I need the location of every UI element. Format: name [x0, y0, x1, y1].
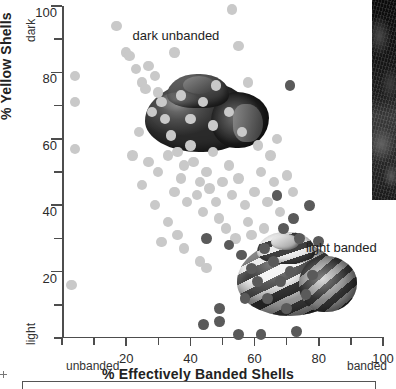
- data-point: [169, 187, 179, 197]
- data-point: [150, 200, 160, 210]
- data-point: [214, 316, 225, 327]
- data-point: [272, 134, 282, 144]
- y-tick-label: 100: [35, 5, 57, 20]
- data-point: [172, 147, 182, 157]
- data-point: [153, 167, 163, 177]
- y-axis-title: % Yellow Shells: [0, 20, 14, 120]
- y-axis-low-label: light: [24, 323, 38, 345]
- data-point: [224, 240, 235, 251]
- data-point: [246, 230, 256, 240]
- data-point: [166, 130, 176, 140]
- y-tick-label: 60: [43, 137, 57, 152]
- data-point: [204, 183, 214, 193]
- data-point: [269, 177, 279, 187]
- data-point: [294, 233, 305, 244]
- data-point: [249, 187, 259, 197]
- data-point: [262, 293, 273, 304]
- data-point: [201, 263, 211, 273]
- data-point: [156, 237, 166, 247]
- data-point: [275, 276, 286, 287]
- data-point: [288, 187, 298, 197]
- data-point: [143, 61, 153, 71]
- light-banded-label: light banded: [306, 240, 377, 255]
- data-point: [281, 303, 292, 314]
- data-point: [278, 223, 289, 234]
- data-point: [111, 21, 121, 31]
- data-point: [70, 144, 80, 154]
- data-point: [124, 51, 134, 61]
- data-point: [70, 97, 80, 107]
- data-point: [256, 167, 266, 177]
- data-point: [179, 243, 189, 253]
- data-point: [259, 223, 269, 233]
- data-point: [272, 190, 283, 201]
- data-point: [233, 41, 243, 51]
- x-axis-title: % Effectively Banded Shells: [102, 366, 294, 382]
- data-point: [198, 319, 209, 330]
- data-point: [275, 207, 285, 217]
- data-point: [214, 303, 225, 314]
- data-point: [227, 190, 237, 200]
- data-point: [259, 243, 270, 254]
- data-point: [127, 150, 137, 160]
- plot-area: dark unbandedlight banded: [62, 6, 383, 338]
- x-axis-tick-labels: 20406080100: [62, 338, 383, 358]
- y-tick-label: 20: [43, 270, 57, 285]
- data-point: [176, 173, 186, 183]
- y-tick-label: 40: [43, 204, 57, 219]
- data-point: [198, 207, 208, 217]
- data-point: [243, 77, 253, 87]
- data-point: [227, 4, 237, 14]
- dark-unbanded-label: dark unbanded: [133, 28, 220, 43]
- data-point: [265, 150, 275, 160]
- data-point: [176, 90, 186, 100]
- x-axis-low-label: unbanded: [66, 359, 119, 373]
- data-point: [285, 80, 296, 91]
- data-point: [201, 233, 212, 244]
- x-axis-high-label: banded: [347, 359, 387, 373]
- data-point: [262, 197, 272, 207]
- shell-lip: [233, 104, 263, 142]
- data-point: [291, 326, 302, 337]
- figure-frame-bottom: [22, 381, 376, 389]
- x-tick-label: 80: [312, 351, 326, 366]
- data-point: [70, 71, 80, 81]
- x-tick-label: 40: [183, 351, 197, 366]
- shell-aperture: [299, 256, 357, 312]
- data-point: [188, 157, 198, 167]
- data-point: [185, 114, 195, 124]
- data-point: [208, 120, 218, 130]
- data-point: [246, 263, 257, 274]
- x-tick-label: 20: [119, 351, 133, 366]
- data-point: [208, 147, 218, 157]
- data-point: [140, 84, 150, 94]
- data-point: [307, 270, 318, 281]
- data-point: [182, 197, 192, 207]
- data-point: [211, 197, 221, 207]
- data-point: [172, 230, 182, 240]
- data-point: [150, 71, 160, 81]
- data-point: [66, 280, 76, 290]
- data-point: [240, 200, 250, 210]
- data-point: [211, 80, 221, 90]
- data-point: [221, 223, 231, 233]
- data-point: [285, 266, 296, 277]
- data-point: [185, 140, 195, 150]
- data-point: [253, 140, 263, 150]
- data-point: [131, 64, 141, 74]
- crop-mark: [0, 371, 7, 378]
- y-axis-line: [62, 6, 64, 338]
- data-point: [288, 213, 299, 224]
- data-point: [143, 157, 153, 167]
- data-point: [137, 180, 147, 190]
- data-point: [192, 190, 202, 200]
- data-point: [214, 213, 224, 223]
- data-point: [153, 87, 163, 97]
- data-point: [169, 47, 179, 57]
- data-point: [201, 167, 211, 177]
- data-point: [240, 293, 251, 304]
- x-tick-label: 60: [247, 351, 261, 366]
- data-point: [160, 114, 170, 124]
- y-tick-label: 80: [43, 71, 57, 86]
